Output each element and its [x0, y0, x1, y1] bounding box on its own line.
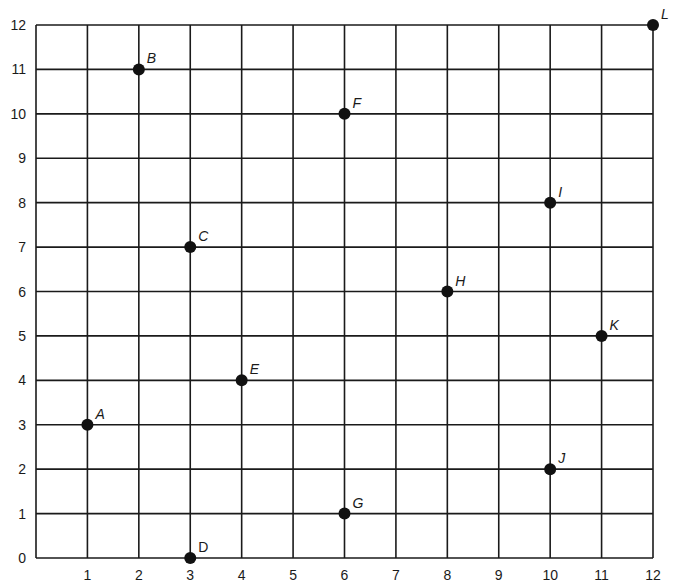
y-tick-label: 7	[18, 239, 26, 255]
point-label: I	[558, 184, 562, 200]
y-tick-label: 9	[18, 150, 26, 166]
data-point-c: C	[184, 228, 209, 253]
x-tick-label: 9	[495, 567, 503, 583]
point-label: J	[557, 450, 566, 466]
y-axis-tick-labels: 0123456789101112	[10, 17, 26, 566]
data-point-l: L	[647, 6, 669, 31]
y-tick-label: 2	[18, 461, 26, 477]
data-point-b: B	[133, 50, 156, 75]
x-tick-label: 5	[289, 567, 297, 583]
x-tick-label: 6	[341, 567, 349, 583]
y-tick-label: 6	[18, 284, 26, 300]
y-tick-label: 10	[10, 106, 26, 122]
point-marker-icon	[236, 374, 248, 386]
data-point-i: I	[544, 184, 562, 209]
point-marker-icon	[596, 330, 608, 342]
y-tick-label: 5	[18, 328, 26, 344]
y-tick-label: 8	[18, 195, 26, 211]
point-label: G	[353, 495, 364, 511]
point-label: F	[353, 95, 363, 111]
point-marker-icon	[339, 108, 351, 120]
data-point-a: A	[81, 406, 104, 431]
point-label: E	[250, 361, 260, 377]
x-tick-label: 7	[392, 567, 400, 583]
data-point-j: J	[544, 450, 566, 475]
data-point-f: F	[339, 95, 363, 120]
y-tick-label: 3	[18, 417, 26, 433]
point-label: H	[455, 273, 466, 289]
point-marker-icon	[441, 286, 453, 298]
coordinate-grid-chart: 0123456789101112 123456789101112 ABCDEFG…	[0, 0, 680, 585]
x-tick-label: 1	[84, 567, 92, 583]
data-point-e: E	[236, 361, 260, 386]
x-tick-label: 12	[645, 567, 661, 583]
point-marker-icon	[133, 63, 145, 75]
point-label: L	[661, 6, 669, 22]
data-point-h: H	[441, 273, 466, 298]
x-tick-label: 2	[135, 567, 143, 583]
point-label: A	[94, 406, 104, 422]
point-marker-icon	[184, 552, 196, 564]
point-marker-icon	[339, 508, 351, 520]
y-tick-label: 12	[10, 17, 26, 33]
x-tick-label: 4	[238, 567, 246, 583]
y-tick-label: 11	[11, 61, 26, 77]
x-tick-label: 8	[443, 567, 451, 583]
point-marker-icon	[81, 419, 93, 431]
point-label: C	[198, 228, 209, 244]
x-tick-label: 3	[186, 567, 194, 583]
x-tick-label: 11	[594, 567, 609, 583]
data-point-g: G	[339, 495, 364, 520]
point-label: D	[198, 539, 208, 555]
data-points: ABCDEFGHIJKL	[81, 6, 668, 564]
y-tick-label: 4	[18, 372, 26, 388]
data-point-k: K	[596, 317, 620, 342]
point-marker-icon	[544, 197, 556, 209]
point-marker-icon	[544, 463, 556, 475]
x-tick-label: 10	[542, 567, 558, 583]
grid-lines	[36, 25, 653, 558]
point-marker-icon	[184, 241, 196, 253]
point-label: B	[147, 50, 156, 66]
point-marker-icon	[647, 19, 659, 31]
point-label: K	[610, 317, 620, 333]
data-point-d: D	[184, 539, 208, 564]
x-axis-tick-labels: 123456789101112	[84, 567, 661, 583]
y-tick-label: 0	[18, 550, 26, 566]
y-tick-label: 1	[18, 506, 26, 522]
